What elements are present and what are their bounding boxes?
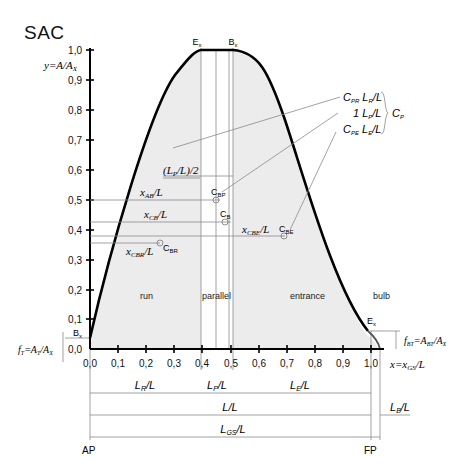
svg-text:CPR LR/L: CPR LR/L: [343, 91, 382, 104]
point-bx-top: Bx: [228, 37, 237, 48]
svg-text:1,0: 1,0: [364, 358, 378, 369]
svg-text:0,9: 0,9: [336, 358, 350, 369]
fp-label: FP: [364, 445, 377, 456]
svg-text:0,7: 0,7: [68, 135, 82, 146]
svg-text:0,5: 0,5: [68, 195, 82, 206]
svg-text:0,8: 0,8: [68, 105, 82, 116]
parallel-region: [201, 50, 233, 349]
svg-text:0,4: 0,4: [195, 358, 209, 369]
svg-text:CP: CP: [392, 107, 404, 120]
point-bx-low: Bx: [73, 328, 82, 339]
half-parallel-label: (LP/L)/2: [163, 164, 199, 178]
ft-label: fT=AT/AX: [18, 344, 53, 356]
sac-diagram: 0,0 0,1 0,2 0,3 0,4 0,5 0,6 0,7 0,8 0,9 …: [0, 0, 464, 476]
svg-text:0,2: 0,2: [139, 358, 153, 369]
x-axis-label: x=xGS/L: [389, 358, 425, 372]
svg-text:0,0: 0,0: [68, 344, 82, 355]
svg-text:LB/L: LB/L: [390, 401, 410, 414]
svg-text:1 LP/L: 1 LP/L: [353, 107, 382, 120]
svg-text:1,0: 1,0: [68, 45, 82, 56]
svg-text:LP/L: LP/L: [207, 379, 227, 392]
coefficient-brace: [381, 92, 388, 134]
svg-text:parallel: parallel: [202, 291, 231, 301]
coefficient-labels: CPR LR/L 1 LP/L CPE LE/L CP: [343, 91, 404, 136]
svg-text:LGS/L: LGS/L: [220, 423, 245, 436]
svg-text:0,5: 0,5: [224, 358, 238, 369]
svg-text:0,2: 0,2: [68, 285, 82, 296]
svg-text:0,4: 0,4: [68, 225, 82, 236]
sac-area: [90, 50, 378, 349]
svg-text:0,1: 0,1: [111, 358, 125, 369]
svg-text:0,0: 0,0: [83, 358, 97, 369]
svg-text:0,6: 0,6: [252, 358, 266, 369]
length-labels: LR/L LP/L LE/L L/L LB/L LGS/L: [135, 379, 410, 436]
svg-text:0,3: 0,3: [167, 358, 181, 369]
svg-text:0,9: 0,9: [68, 75, 82, 86]
svg-text:L/L: L/L: [222, 401, 237, 413]
length-dimensions: [90, 393, 410, 437]
svg-text:0,8: 0,8: [308, 358, 322, 369]
point-ex-top: Ex: [192, 37, 201, 48]
y-axis-label: y=A/AX: [43, 59, 78, 73]
svg-text:run: run: [140, 291, 153, 301]
y-tick-labels: 0,0 0,1 0,2 0,3 0,4 0,5 0,6 0,7 0,8 0,9 …: [68, 45, 82, 355]
ap-label: AP: [82, 445, 96, 456]
svg-text:0,1: 0,1: [68, 314, 82, 325]
svg-text:LR/L: LR/L: [135, 379, 155, 392]
x-tick-labels: 0,0 0,1 0,2 0,3 0,4 0,5 0,6 0,7 0,8 0,9 …: [83, 358, 378, 369]
svg-text:CPE LE/L: CPE LE/L: [343, 123, 381, 136]
svg-text:0,3: 0,3: [68, 255, 82, 266]
fbt-label: fBT=ABT/AX: [404, 335, 447, 347]
svg-text:bulb: bulb: [373, 291, 390, 301]
svg-text:0,6: 0,6: [68, 165, 82, 176]
svg-text:0,7: 0,7: [280, 358, 294, 369]
svg-text:LE/L: LE/L: [290, 379, 310, 392]
svg-text:entrance: entrance: [290, 291, 325, 301]
point-ex-bulb: Ex: [367, 316, 376, 327]
